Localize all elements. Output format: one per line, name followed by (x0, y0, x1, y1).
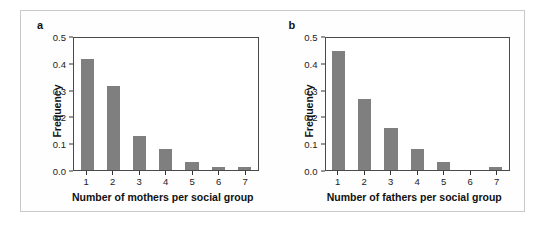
bar-slot (153, 38, 179, 170)
x-axis-ticks-b: 1234567 (325, 171, 511, 189)
bar-slot (126, 38, 152, 170)
x-tick-label: 7 (487, 176, 507, 187)
y-tick-label: 0.2 (304, 112, 317, 123)
x-tick-label: 4 (407, 176, 427, 187)
y-tick-label: 0.1 (53, 139, 66, 150)
x-tick-mark (390, 171, 391, 175)
y-axis-ticks-a: 0.00.10.20.30.40.5 (43, 37, 69, 171)
x-tick-mark (470, 171, 471, 175)
bar (159, 149, 172, 170)
x-tick-mark (443, 171, 444, 175)
plot-area-a (73, 37, 259, 171)
y-tick-label: 0.3 (304, 85, 317, 96)
x-tick: 2 (103, 171, 123, 187)
bar-slot (457, 38, 483, 170)
bar (133, 136, 146, 170)
x-tick: 6 (460, 171, 480, 187)
x-tick-label: 5 (182, 176, 202, 187)
bar-slot (352, 38, 378, 170)
bar (185, 162, 198, 170)
x-axis-ticks-a: 1234567 (73, 171, 259, 189)
x-tick: 1 (328, 171, 348, 187)
bar-slot (100, 38, 126, 170)
bar-slot (404, 38, 430, 170)
bar (358, 99, 371, 170)
bar-slot (326, 38, 352, 170)
x-tick-mark (496, 171, 497, 175)
bar (81, 59, 94, 170)
y-axis-ticks-b: 0.00.10.20.30.40.5 (295, 37, 321, 171)
bar-series-b (326, 38, 510, 170)
plot-wrap-a: Frequency 0.00.10.20.30.40.5 1234567 Num… (21, 11, 273, 211)
bar (437, 162, 450, 170)
x-tick: 4 (407, 171, 427, 187)
plot-area-b (325, 37, 511, 171)
y-tick-label: 0.5 (304, 32, 317, 43)
bar-slot (483, 38, 509, 170)
bar (411, 149, 424, 170)
x-tick-label: 2 (354, 176, 374, 187)
x-tick-mark (165, 171, 166, 175)
y-tick-label: 0.3 (53, 85, 66, 96)
bar (489, 167, 502, 170)
bar-series-a (74, 38, 258, 170)
y-tick-label: 0.4 (304, 58, 317, 69)
panel-b: b Frequency 0.00.10.20.30.40.5 1234567 N… (273, 11, 525, 211)
y-tick-label: 0.0 (53, 166, 66, 177)
x-tick: 5 (182, 171, 202, 187)
x-tick: 5 (434, 171, 454, 187)
x-tick-mark (417, 171, 418, 175)
x-tick: 3 (129, 171, 149, 187)
y-tick-label: 0.0 (304, 166, 317, 177)
x-tick-label: 7 (235, 176, 255, 187)
y-tick-label: 0.1 (304, 139, 317, 150)
bar-slot (205, 38, 231, 170)
y-tick-label: 0.5 (53, 32, 66, 43)
x-tick-label: 4 (156, 176, 176, 187)
bar (332, 51, 345, 170)
x-tick: 6 (209, 171, 229, 187)
x-tick: 4 (156, 171, 176, 187)
x-tick-label: 6 (209, 176, 229, 187)
x-tick-mark (218, 171, 219, 175)
x-tick-mark (86, 171, 87, 175)
x-tick-mark (192, 171, 193, 175)
x-tick-label: 5 (434, 176, 454, 187)
x-tick: 7 (235, 171, 255, 187)
x-tick-label: 2 (103, 176, 123, 187)
y-tick-label: 0.2 (53, 112, 66, 123)
x-axis-title-b: Number of fathers per social group (313, 191, 517, 203)
x-tick-mark (337, 171, 338, 175)
x-tick-label: 1 (328, 176, 348, 187)
x-tick-label: 3 (129, 176, 149, 187)
figure-container: a Frequency 0.00.10.20.30.40.5 1234567 N… (20, 10, 525, 212)
x-tick-label: 6 (460, 176, 480, 187)
bar (238, 167, 251, 170)
bar (107, 86, 120, 170)
bar-slot (179, 38, 205, 170)
x-tick: 2 (354, 171, 374, 187)
x-axis-title-a: Number of mothers per social group (61, 191, 265, 203)
x-tick-mark (245, 171, 246, 175)
x-tick-label: 3 (381, 176, 401, 187)
bar-slot (231, 38, 257, 170)
x-tick: 3 (381, 171, 401, 187)
y-tick-label: 0.4 (53, 58, 66, 69)
bar-slot (378, 38, 404, 170)
x-tick-mark (364, 171, 365, 175)
x-tick-mark (112, 171, 113, 175)
x-tick-mark (139, 171, 140, 175)
bar (384, 128, 397, 170)
bar-slot (430, 38, 456, 170)
plot-wrap-b: Frequency 0.00.10.20.30.40.5 1234567 Num… (273, 11, 525, 211)
bar (212, 167, 225, 170)
bar-slot (74, 38, 100, 170)
x-tick: 7 (487, 171, 507, 187)
x-tick-label: 1 (76, 176, 96, 187)
x-tick: 1 (76, 171, 96, 187)
panel-a: a Frequency 0.00.10.20.30.40.5 1234567 N… (21, 11, 273, 211)
